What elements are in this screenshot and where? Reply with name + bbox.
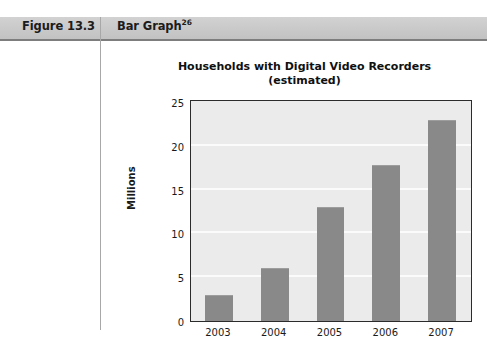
chart-title-line-1: Households with Digital Video Recorders: [132, 60, 477, 74]
figure-header-underline: [0, 39, 487, 41]
y-axis-tick-label: 0: [158, 317, 184, 328]
bar: [261, 268, 289, 321]
y-axis-tick-label: 20: [158, 142, 184, 153]
x-axis-tick-labels: 20032004200520062007: [190, 327, 472, 343]
figure-kind-superscript: 26: [182, 18, 192, 27]
y-axis-tick-label: 15: [158, 186, 184, 197]
plot-inner: [191, 101, 471, 321]
bar: [428, 120, 456, 321]
x-axis-tick-label: 2003: [190, 327, 246, 338]
bar-chart: Households with Digital Video Recorders …: [132, 60, 477, 340]
figure-kind-text: Bar Graph: [117, 19, 182, 33]
plot-area: [190, 100, 472, 322]
x-axis-tick-label: 2006: [357, 327, 413, 338]
chart-title-line-2: (estimated): [132, 74, 477, 88]
bar: [205, 295, 233, 321]
y-axis-tick-label: 10: [158, 229, 184, 240]
figure-number-label: Figure 13.3: [22, 19, 95, 33]
x-axis-tick-label: 2004: [246, 327, 302, 338]
figure-kind-label: Bar Graph26: [117, 19, 192, 33]
y-axis-tick-label: 25: [158, 98, 184, 109]
chart-title: Households with Digital Video Recorders …: [132, 60, 477, 88]
y-axis-tick-label: 5: [158, 273, 184, 284]
y-axis-title: Millions: [126, 166, 137, 210]
x-axis-tick-label: 2005: [302, 327, 358, 338]
bar: [372, 165, 400, 321]
bar: [317, 207, 345, 321]
x-axis-tick-label: 2007: [413, 327, 469, 338]
y-axis-tick-labels: 0510152025: [154, 100, 184, 322]
figure-header-divider: [100, 17, 101, 330]
